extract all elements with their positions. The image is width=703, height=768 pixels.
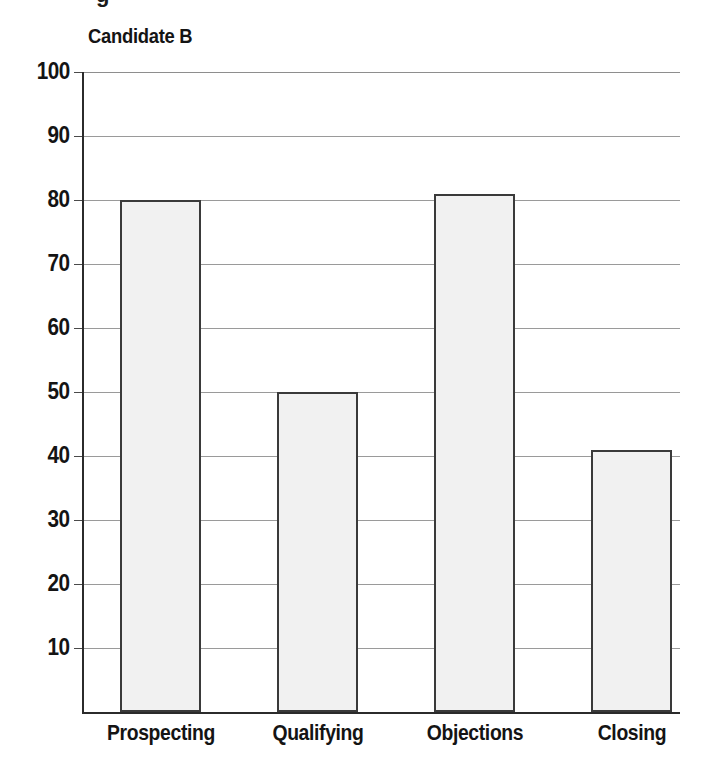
gridline-100 (82, 72, 680, 73)
y-axis-label-40: 40 (48, 444, 70, 467)
y-axis-label-60: 60 (48, 316, 70, 339)
y-axis-label-30: 30 (48, 508, 70, 531)
y-axis-label-100: 100 (37, 60, 70, 83)
y-axis-label-80: 80 (48, 188, 70, 211)
x-axis-line (82, 712, 680, 714)
bar-objections (434, 194, 515, 712)
x-axis-label-prospecting: Prospecting (81, 722, 239, 744)
bar-qualifying (277, 392, 358, 712)
y-axis-label-10: 10 (48, 636, 70, 659)
x-axis-label-objections: Objections (395, 722, 553, 744)
y-axis-label-70: 70 (48, 252, 70, 275)
gridline-90 (82, 136, 680, 137)
y-axis-label-50: 50 (48, 380, 70, 403)
bar-chart-plot-area: 102030405060708090100 ProspectingQualify… (0, 0, 703, 768)
y-axis-label-20: 20 (48, 572, 70, 595)
x-axis-label-closing: Closing (552, 722, 703, 744)
bar-closing (591, 450, 672, 712)
x-axis-label-qualifying: Qualifying (238, 722, 396, 744)
y-axis-label-90: 90 (48, 124, 70, 147)
bar-prospecting (120, 200, 201, 712)
y-axis-line (82, 72, 84, 714)
